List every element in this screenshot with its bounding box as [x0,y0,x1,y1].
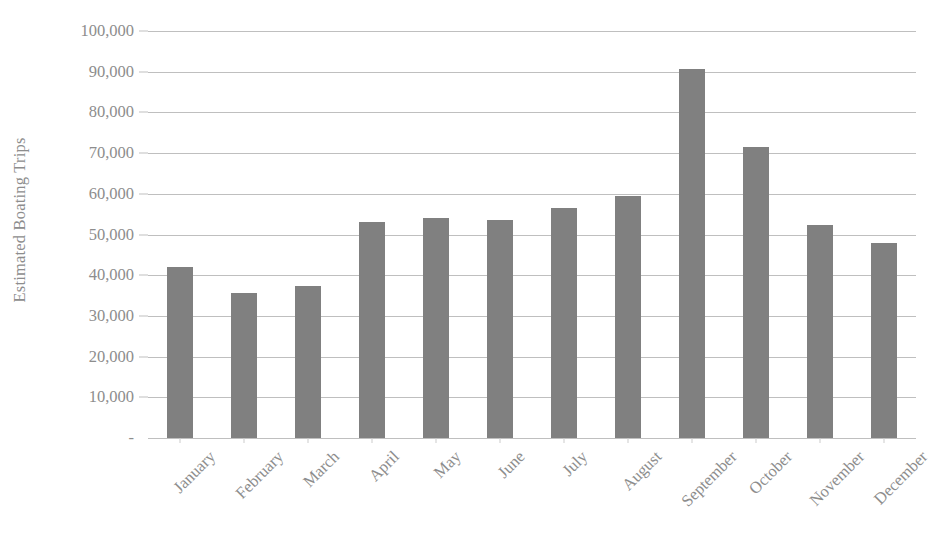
bar-slot [276,31,340,438]
bar-april[interactable] [359,222,385,438]
bar-june[interactable] [487,220,513,438]
x-label-slot: August [596,441,660,540]
y-tick-label: 20,000 [89,347,148,367]
bar-slot [724,31,788,438]
x-label-slot: October [724,441,788,540]
bar-slot [660,31,724,438]
bar-september[interactable] [679,69,705,438]
bar-may[interactable] [423,218,449,438]
x-label-slot: April [340,441,404,540]
bar-february[interactable] [231,293,257,438]
y-axis-title-text: Estimated Boating Trips [10,137,30,302]
bar-slot [852,31,916,438]
bar-slot [596,31,660,438]
bar-slot [340,31,404,438]
x-label-slot: February [212,441,276,540]
y-axis-title: Estimated Boating Trips [0,0,40,440]
y-tick-label: - [129,428,149,448]
bar-slot [404,31,468,438]
y-tick-label: 40,000 [89,265,148,285]
bar-october[interactable] [743,147,769,438]
x-label-slot: May [404,441,468,540]
bars [148,31,916,438]
y-tick-label: 60,000 [89,184,148,204]
x-axis-label-march: March [299,447,344,492]
gridline-0 [148,438,916,439]
y-tick-label: 50,000 [89,225,148,245]
bar-slot [788,31,852,438]
y-tick-label: 30,000 [89,306,148,326]
bar-slot [148,31,212,438]
x-label-slot: June [468,441,532,540]
x-label-slot: January [148,441,212,540]
x-label-slot: July [532,441,596,540]
y-tick-label: 70,000 [89,143,148,163]
y-tick-label: 100,000 [80,21,148,41]
x-axis-label-august: August [618,447,666,495]
bar-january[interactable] [167,267,193,438]
plot-area: 100,00090,00080,00070,00060,00050,00040,… [148,31,916,438]
x-axis-label-april: April [365,447,404,486]
x-axis-label-july: July [558,447,592,481]
x-label-slot: March [276,441,340,540]
bar-august[interactable] [615,196,641,438]
bar-march[interactable] [295,286,321,438]
bar-july[interactable] [551,208,577,438]
x-label-slot: November [788,441,852,540]
x-axis-label-december: December [870,447,932,509]
bar-december[interactable] [871,243,897,438]
bar-slot [212,31,276,438]
bar-slot [532,31,596,438]
x-axis-labels: JanuaryFebruaryMarchAprilMayJuneJulyAugu… [148,441,916,540]
x-axis-label-june: June [494,447,530,483]
y-tick-label: 10,000 [89,387,148,407]
x-label-slot: September [660,441,724,540]
x-label-slot: December [852,441,916,540]
y-tick-label: 90,000 [89,62,148,82]
bar-chart-figure: Estimated Boating Trips 100,00090,00080,… [0,0,933,540]
x-axis-label-may: May [430,447,466,483]
y-tick-label: 80,000 [89,102,148,122]
bar-slot [468,31,532,438]
bar-november[interactable] [807,225,833,438]
